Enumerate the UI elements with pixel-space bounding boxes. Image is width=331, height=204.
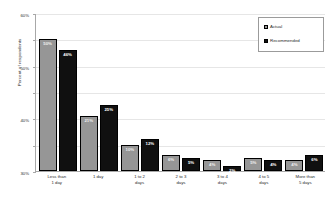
bar-actual[interactable]: 21% xyxy=(80,116,98,171)
bar-recommended[interactable]: 6% xyxy=(305,155,323,171)
x-axis-labels: Less than1 day1 day1 to 2days2 to 3days3… xyxy=(36,174,326,186)
bar-group: 10%12% xyxy=(119,14,160,171)
x-axis-label-line: days xyxy=(119,180,160,186)
y-axis-tick: 20% xyxy=(33,119,36,120)
y-axis-tick: 40% xyxy=(33,67,36,68)
bar-actual[interactable]: 6% xyxy=(162,155,180,171)
y-axis-title: Percent of respondents xyxy=(17,8,22,118)
bar-value-label: 10% xyxy=(122,148,138,152)
bar-value-label: 25% xyxy=(101,108,117,112)
legend: Actual Recommended xyxy=(258,17,324,52)
y-axis-tick: 10% xyxy=(33,146,36,147)
bar-value-label: 4% xyxy=(265,163,281,167)
y-axis-tick: 30% xyxy=(33,93,36,94)
x-axis-label: 1 to 2days xyxy=(119,174,160,186)
y-axis-tick: 50% xyxy=(33,40,36,41)
x-axis-label-line: days xyxy=(243,180,284,186)
bar-chart: Percent of respondents 0%10%20%30%40%50%… xyxy=(0,0,331,204)
y-axis-tick-label: 40% xyxy=(20,118,29,123)
bar-value-label: 21% xyxy=(81,119,97,123)
x-axis-label-line: days xyxy=(202,180,243,186)
bar-value-label: 4% xyxy=(204,163,220,167)
y-axis-tick: 0% xyxy=(33,172,36,173)
bar-actual[interactable]: 10% xyxy=(121,145,139,171)
bar-value-label: 46% xyxy=(60,53,76,57)
bar-actual[interactable]: 50% xyxy=(39,39,57,171)
bar-actual[interactable]: 4% xyxy=(285,160,303,171)
legend-item-actual: Actual xyxy=(264,24,323,29)
x-axis-label-line: 1 day xyxy=(77,174,118,180)
bar-recommended[interactable]: 2% xyxy=(223,166,241,171)
bar-actual[interactable]: 4% xyxy=(203,160,221,171)
bar-value-label: 5% xyxy=(183,161,199,165)
x-axis-label-line: days xyxy=(160,180,201,186)
y-axis-tick: 60% xyxy=(33,14,36,15)
x-axis-label: More than5 days xyxy=(285,174,326,186)
bar-value-label: 12% xyxy=(142,142,158,146)
bar-value-label: 2% xyxy=(224,169,240,173)
x-axis-label-line: 1 day xyxy=(36,180,77,186)
x-axis-label: Less than1 day xyxy=(36,174,77,186)
x-axis-label: 3 to 4days xyxy=(202,174,243,186)
legend-swatch-icon xyxy=(264,25,268,29)
x-axis-label: 4 to 5days xyxy=(243,174,284,186)
y-axis-tick-label: 60% xyxy=(20,13,29,18)
bar-group: 21%25% xyxy=(78,14,119,171)
bar-group: 50%46% xyxy=(37,14,78,171)
bar-value-label: 50% xyxy=(40,42,56,46)
x-axis-label: 1 day xyxy=(77,174,118,186)
legend-item-recommended: Recommended xyxy=(264,38,323,43)
y-axis-tick-label: 50% xyxy=(20,65,29,70)
bar-recommended[interactable]: 5% xyxy=(182,158,200,171)
bar-recommended[interactable]: 25% xyxy=(100,105,118,171)
legend-label: Actual xyxy=(270,24,282,29)
bar-recommended[interactable]: 4% xyxy=(264,160,282,171)
x-axis-label-line: 5 days xyxy=(285,180,326,186)
bar-value-label: 6% xyxy=(163,158,179,162)
bar-actual[interactable]: 5% xyxy=(244,158,262,171)
bar-group: 6%5% xyxy=(160,14,201,171)
y-axis-tick-label: 30% xyxy=(20,171,29,176)
legend-swatch-icon xyxy=(264,39,268,43)
bar-value-label: 6% xyxy=(306,158,322,162)
bar-recommended[interactable]: 12% xyxy=(141,139,159,171)
bar-value-label: 5% xyxy=(245,161,261,165)
legend-label: Recommended xyxy=(270,38,300,43)
x-axis-label: 2 to 3days xyxy=(160,174,201,186)
bar-value-label: 4% xyxy=(286,163,302,167)
bar-group: 4%2% xyxy=(202,14,243,171)
bar-recommended[interactable]: 46% xyxy=(59,50,77,171)
